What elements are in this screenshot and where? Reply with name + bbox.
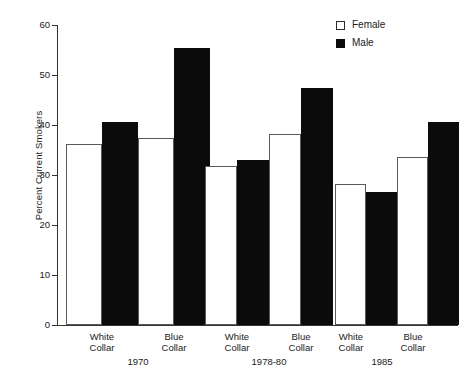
bar-1978-80-white-collar-female: [205, 166, 237, 325]
x-sublabel-line2: Collar: [201, 342, 273, 353]
legend-item-male: Male: [336, 35, 385, 51]
x-sublabel-1985-blue-collar: Blue Collar: [377, 331, 449, 353]
bar-1978-80-blue-collar-male: [301, 88, 333, 325]
x-sublabel-1978-80-white-collar: White Collar: [201, 331, 273, 353]
x-sublabel-line2: Collar: [62, 342, 142, 353]
x-axis-line: [57, 325, 458, 326]
y-tick-0: 0: [0, 325, 50, 326]
x-sublabel-line1: White: [201, 331, 273, 342]
bar-chart: Percent Current Smokers 60 50 40 30 20 1…: [0, 0, 463, 387]
bar-1985-white-collar-female: [335, 184, 366, 325]
x-sublabel-line2: Collar: [377, 342, 449, 353]
y-tick-10: 10: [0, 275, 50, 276]
y-tick-label: 10: [10, 270, 50, 280]
filled-square-swatch-icon: [336, 39, 345, 48]
y-tick-40: 40: [0, 125, 50, 126]
bar-1970-white-collar-female: [66, 144, 102, 325]
x-group-label-1985: 1985: [346, 356, 418, 367]
y-axis-title: Percent Current Smokers: [33, 66, 44, 266]
bar-1978-80-white-collar-male: [237, 160, 269, 325]
bar-1970-white-collar-male: [102, 122, 138, 325]
y-tick-label: 60: [10, 20, 50, 30]
y-tick-label: 20: [10, 220, 50, 230]
y-tick-label: 40: [10, 120, 50, 130]
x-sublabel-1970-white-collar: White Collar: [62, 331, 142, 353]
y-tick-label: 50: [10, 70, 50, 80]
bar-1978-80-blue-collar-female: [269, 134, 301, 325]
x-group-label-1970: 1970: [98, 356, 178, 367]
bar-1985-blue-collar-female: [397, 157, 428, 325]
legend: Female Male: [336, 17, 385, 53]
y-tick-60: 60: [0, 25, 50, 26]
bar-1985-white-collar-male: [366, 192, 397, 325]
bar-1985-blue-collar-male: [428, 122, 459, 325]
legend-item-female: Female: [336, 17, 385, 33]
x-sublabel-line1: Blue: [377, 331, 449, 342]
y-tick-50: 50: [0, 75, 50, 76]
y-tick-label: 30: [10, 170, 50, 180]
bar-1970-blue-collar-female: [138, 138, 174, 326]
y-tick-30: 30: [0, 175, 50, 176]
x-sublabel-line1: White: [62, 331, 142, 342]
x-group-label-1978-80: 1978-80: [233, 356, 305, 367]
legend-label-female: Female: [352, 20, 385, 30]
y-tick-label: 0: [10, 320, 50, 330]
y-tick-20: 20: [0, 225, 50, 226]
legend-label-male: Male: [352, 38, 374, 48]
open-square-swatch-icon: [336, 21, 345, 30]
